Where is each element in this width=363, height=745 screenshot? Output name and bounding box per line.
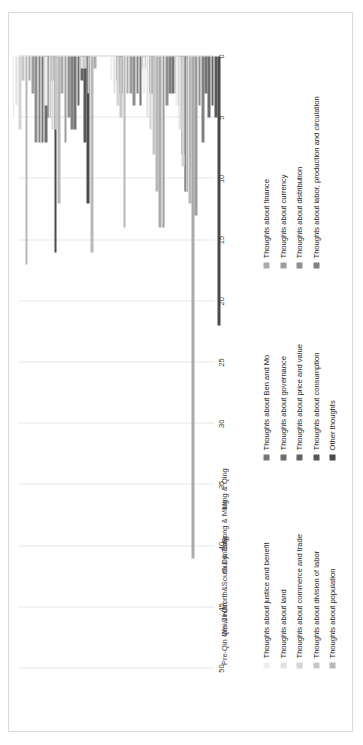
legend-item[interactable]: Thoughts about land (275, 533, 292, 668)
bar (191, 56, 194, 558)
bar (110, 56, 113, 80)
tick-label: 50 (216, 659, 225, 677)
chart-frame: Pre-QinQin & HanWei,Jin,North&South Dyna… (8, 12, 353, 732)
legend-swatch-icon (313, 662, 319, 668)
bar (142, 56, 145, 93)
legend-item[interactable]: Thoughts about labor, production and cir… (308, 96, 325, 268)
bar (54, 56, 57, 129)
bar (73, 56, 76, 129)
tick-label: 10 (216, 169, 225, 187)
bar (181, 56, 184, 166)
bar (64, 56, 67, 142)
legend-label: Other thoughts (328, 400, 336, 450)
bar-group (116, 56, 149, 668)
bar (207, 56, 210, 117)
bar (60, 56, 63, 93)
legend-item[interactable]: Thoughts about justice and benefit (258, 533, 275, 668)
bar (211, 56, 214, 105)
bar-group (51, 56, 84, 668)
bar (31, 56, 34, 93)
tick-label: 5 (216, 108, 225, 126)
legend-item[interactable]: Thoughts about consumption (308, 344, 325, 460)
legend-swatch-icon (280, 262, 286, 268)
bar (146, 56, 149, 117)
legend-label: Thoughts about distribution (295, 166, 303, 258)
bar (83, 56, 86, 68)
legend-label: Thoughts about finance (262, 179, 270, 258)
tick-label: 20 (216, 292, 225, 310)
legend-item[interactable]: Thoughts about currency (275, 96, 292, 268)
legend-item[interactable]: Other thoughts (324, 344, 341, 460)
bar (34, 56, 37, 142)
legend-label: Thoughts about labor, production and cir… (312, 96, 320, 258)
bar (139, 56, 142, 105)
tick-label: 30 (216, 414, 225, 432)
legend-swatch-icon (313, 454, 319, 460)
legend-label: Thoughts about division of labor (312, 550, 320, 658)
tick-label: 40 (216, 537, 225, 555)
legend-label: Thoughts about governance (279, 355, 287, 450)
bar (41, 56, 44, 142)
legend-column-one: Thoughts about justice and benefitThough… (258, 533, 341, 668)
legend-swatch-icon (263, 662, 269, 668)
bar (70, 56, 73, 129)
legend-label: Thoughts about Ben and Mo (262, 354, 270, 450)
legend-swatch-icon (263, 262, 269, 268)
rotated-chart-canvas: Pre-QinQin & HanWei,Jin,North&South Dyna… (10, 14, 351, 730)
bar (175, 56, 178, 105)
bar (178, 56, 181, 129)
legend-item[interactable]: Thoughts about division of labor (308, 533, 325, 668)
bar (38, 56, 41, 142)
bar (152, 56, 155, 154)
bar (165, 56, 168, 105)
bar (116, 56, 119, 105)
bar (28, 56, 31, 80)
bar (18, 56, 21, 129)
chart-legend: Thoughts about justice and benefitThough… (258, 56, 344, 668)
bar (168, 56, 171, 93)
bar (204, 56, 207, 93)
legend-item[interactable]: Thoughts about distribution (291, 96, 308, 268)
bar (15, 56, 18, 105)
bar (113, 56, 116, 93)
legend-item[interactable]: Thoughts about finance (258, 96, 275, 268)
bar (185, 56, 188, 191)
bar (123, 56, 126, 227)
bar (12, 56, 15, 117)
bar (119, 56, 122, 117)
legend-item[interactable]: Thoughts about price and value (291, 344, 308, 460)
legend-item[interactable]: Thoughts about Ben and Mo (258, 344, 275, 460)
legend-swatch-icon (280, 454, 286, 460)
legend-swatch-icon (296, 662, 302, 668)
legend-label: Thoughts about commerce and trade (295, 533, 303, 658)
legend-label: Thoughts about consumption (312, 352, 320, 450)
legend-column-three: Thoughts about financeThoughts about cur… (258, 96, 324, 268)
bar (80, 56, 83, 68)
legend-item[interactable]: Thoughts about governance (275, 344, 292, 460)
bar-group (149, 56, 182, 668)
bar (67, 56, 70, 117)
legend-label: Thoughts about justice and benefit (262, 542, 270, 658)
bar-group (18, 56, 51, 668)
bar (48, 56, 51, 117)
bar (171, 56, 174, 93)
bar (57, 56, 60, 203)
bar (201, 56, 204, 142)
bar (25, 56, 28, 264)
plot-area (18, 56, 214, 668)
bar (136, 56, 139, 93)
bar (132, 56, 135, 105)
legend-label: Thoughts about price and value (295, 344, 303, 450)
legend-swatch-icon (329, 454, 335, 460)
bar (158, 56, 161, 227)
legend-swatch-icon (280, 662, 286, 668)
legend-swatch-icon (296, 454, 302, 460)
legend-swatch-icon (313, 262, 319, 268)
bar (129, 56, 132, 93)
bar (93, 56, 96, 68)
legend-item[interactable]: Thoughts about commerce and trade (291, 533, 308, 668)
bar (162, 56, 165, 227)
legend-item[interactable]: Thoughts about population (324, 533, 341, 668)
legend-column-two: Thoughts about Ben and MoThoughts about … (258, 344, 341, 460)
bar (21, 56, 24, 80)
